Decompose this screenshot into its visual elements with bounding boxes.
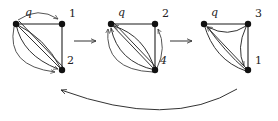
node-2 <box>59 67 65 73</box>
label-2: 2 <box>67 54 74 67</box>
node-1 <box>245 67 251 73</box>
label-1: 1 <box>255 54 262 67</box>
transition-arrow-3-to-1-return <box>61 89 237 110</box>
label-2: 2 <box>162 7 169 20</box>
label-q: q <box>25 6 32 19</box>
graph-3: q 3 1 <box>201 6 262 73</box>
node-1 <box>59 21 65 27</box>
label-1: 1 <box>69 7 76 20</box>
arrow-3-to-q <box>208 26 246 32</box>
arrow-3-to-1 <box>240 27 246 66</box>
graph-2: q 2 4 <box>108 6 169 73</box>
label-4: 4 <box>159 54 167 67</box>
graph-sequence-diagram: q 1 2 q 2 4 q 3 1 <box>0 0 278 121</box>
edge-4-q-straight-b <box>113 22 156 67</box>
arrow-q-to-1 <box>18 13 58 20</box>
label-q: q <box>118 6 125 19</box>
node-q <box>201 21 207 27</box>
node-q <box>108 21 114 27</box>
graph-1: q 1 2 <box>13 6 76 73</box>
edge-4-q-straight-a <box>111 24 155 70</box>
edge-q-2-straight-a <box>16 24 62 70</box>
label-q: q <box>211 6 218 19</box>
node-4 <box>152 67 158 73</box>
label-3: 3 <box>255 7 262 20</box>
node-3 <box>245 21 251 27</box>
node-q <box>13 21 19 27</box>
node-2 <box>152 21 158 27</box>
